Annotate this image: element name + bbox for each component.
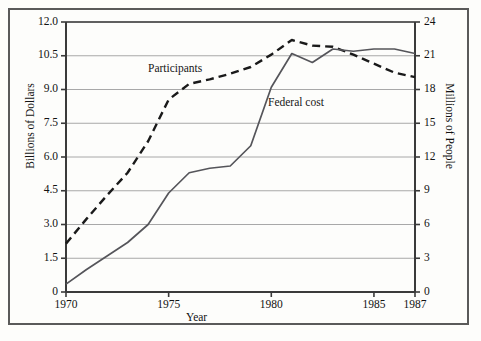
chart-figure: 01.53.04.56.07.59.010.512.0 036912151821…	[0, 0, 481, 341]
y-right-tick-24: 24	[424, 16, 436, 28]
y-right-tick-0: 0	[424, 286, 430, 298]
y-right-tick-3: 3	[424, 252, 430, 264]
y-left-tick-10.5: 10.5	[38, 49, 58, 61]
y-axis-right-title: Millions of People	[444, 66, 456, 186]
series-label-participants: Participants	[148, 62, 202, 74]
y-right-tick-15: 15	[424, 117, 436, 129]
y-left-tick-12.0: 12.0	[38, 16, 58, 28]
y-left-tick-9.0: 9.0	[44, 83, 58, 95]
series-path-federal-cost	[66, 49, 415, 284]
chart-plot-area	[0, 0, 481, 341]
y-right-tick-21: 21	[424, 49, 436, 61]
y-right-tick-9: 9	[424, 184, 430, 196]
y-left-tick-6.0: 6.0	[44, 151, 58, 163]
x-tick-1987: 1987	[404, 299, 427, 311]
x-axis-title: Year	[186, 311, 207, 323]
y-right-tick-12: 12	[424, 151, 436, 163]
x-tick-1970: 1970	[55, 299, 78, 311]
y-left-tick-0: 0	[52, 286, 58, 298]
axis-ticks	[61, 22, 420, 297]
x-tick-1975: 1975	[157, 299, 180, 311]
y-left-tick-4.5: 4.5	[44, 184, 58, 196]
y-right-tick-18: 18	[424, 83, 436, 95]
y-left-tick-3.0: 3.0	[44, 218, 58, 230]
y-left-tick-1.5: 1.5	[44, 252, 58, 264]
y-axis-left-title: Billions of Dollars	[24, 66, 36, 186]
y-left-tick-7.5: 7.5	[44, 117, 58, 129]
x-tick-1985: 1985	[362, 299, 385, 311]
series-label-federal-cost: Federal cost	[268, 96, 324, 108]
data-series	[66, 40, 415, 284]
series-path-participants	[66, 40, 415, 244]
x-tick-1980: 1980	[260, 299, 283, 311]
y-right-tick-6: 6	[424, 218, 430, 230]
